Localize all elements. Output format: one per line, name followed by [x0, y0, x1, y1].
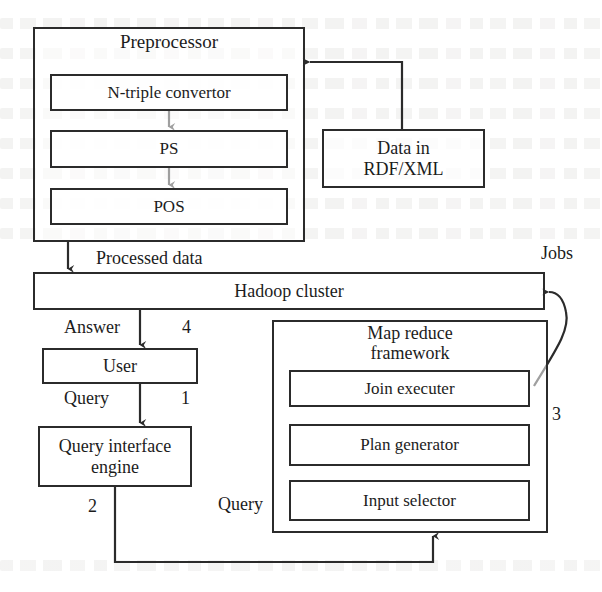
node-join-executer-label: Join executer: [360, 379, 458, 398]
edge-label-step-3: 3: [552, 404, 561, 425]
edge-label-step-1: 1: [181, 388, 190, 409]
node-input-selector-label: Input selector: [359, 491, 460, 510]
node-data-in-rdf-xml-label: Data in RDF/XML: [359, 138, 447, 178]
node-join-executer[interactable]: Join executer: [289, 370, 530, 407]
node-user-label: User: [99, 356, 141, 376]
edge-label-answer: Answer: [64, 317, 120, 338]
node-plan-generator[interactable]: Plan generator: [289, 424, 530, 466]
edge-label-step-4: 4: [182, 317, 191, 338]
edge-label-step-2: 2: [88, 496, 97, 517]
node-ps-label: PS: [156, 139, 183, 158]
node-hadoop-cluster[interactable]: Hadoop cluster: [33, 272, 545, 310]
node-input-selector[interactable]: Input selector: [289, 480, 530, 521]
node-pos-label: POS: [149, 197, 188, 216]
node-query-interface-engine[interactable]: Query interface engine: [38, 426, 192, 487]
node-pos[interactable]: POS: [50, 188, 288, 225]
edge-label-processed-data: Processed data: [96, 248, 202, 269]
edge-label-query-bottom: Query: [218, 494, 263, 515]
node-n-triple-convertor-label: N-triple convertor: [103, 83, 234, 102]
node-data-in-rdf-xml[interactable]: Data in RDF/XML: [322, 129, 485, 188]
node-n-triple-convertor[interactable]: N-triple convertor: [50, 74, 288, 111]
diagram-canvas: Preprocessor N-triple convertor PS POS D…: [0, 0, 602, 592]
node-user[interactable]: User: [42, 348, 198, 384]
connector-rdf-to-preprocessor: [310, 62, 402, 129]
map-reduce-framework-title: Map reduce framework: [272, 324, 548, 364]
node-ps[interactable]: PS: [50, 130, 288, 168]
preprocessor-title: Preprocessor: [33, 32, 305, 53]
edge-label-query-user: Query: [64, 388, 109, 409]
node-query-interface-engine-label: Query interface engine: [55, 436, 175, 476]
node-hadoop-cluster-label: Hadoop cluster: [230, 281, 347, 301]
edge-label-jobs: Jobs: [541, 243, 573, 264]
node-plan-generator-label: Plan generator: [356, 435, 463, 454]
